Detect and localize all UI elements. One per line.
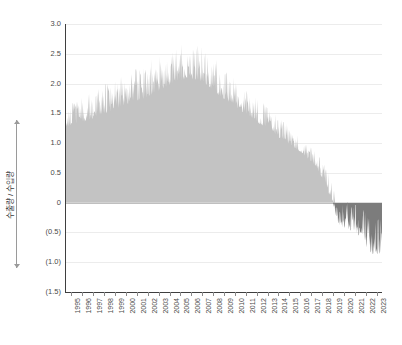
- x-tick-mark-2004: [170, 292, 171, 296]
- x-tick-2004: 2004: [173, 298, 180, 314]
- x-tick-2018: 2018: [325, 298, 332, 314]
- x-tick-2007: 2007: [205, 298, 212, 314]
- x-tick-1995: 1995: [74, 298, 81, 314]
- x-tick-2021: 2021: [358, 298, 365, 314]
- y-tick-10: 1.0: [51, 139, 61, 147]
- x-tick-mark-2007: [202, 292, 203, 296]
- x-tick-2023: 2023: [380, 298, 387, 314]
- y-axis-title: 수출량 / 수입량: [4, 120, 18, 270]
- x-tick-mark-2008: [213, 292, 214, 296]
- x-tick-mark-2003: [159, 292, 160, 296]
- x-tick-2003: 2003: [162, 298, 169, 314]
- x-tick-mark-2005: [180, 292, 181, 296]
- x-tick-mark-2017: [311, 292, 312, 296]
- x-tick-1999: 1999: [118, 298, 125, 314]
- x-tick-mark-1999: [115, 292, 116, 296]
- x-tick-2014: 2014: [281, 298, 288, 314]
- x-tick-mark-2016: [300, 292, 301, 296]
- x-tick-mark-1996: [82, 292, 83, 296]
- x-tick-2019: 2019: [336, 298, 343, 314]
- chart-root: 수출량 / 수입량 3.02.52.01.51.00.50(0.5)(1.0)(…: [0, 0, 402, 345]
- x-tick-mark-2021: [355, 292, 356, 296]
- x-tick-1998: 1998: [107, 298, 114, 314]
- x-tick-2002: 2002: [151, 298, 158, 314]
- area-negative: [66, 203, 382, 255]
- x-tick-2000: 2000: [129, 298, 136, 314]
- x-tick-mark-2000: [126, 292, 127, 296]
- x-tick-mark-1998: [104, 292, 105, 296]
- x-tick-mark-2019: [333, 292, 334, 296]
- x-tick-mark-2022: [366, 292, 367, 296]
- x-tick-2013: 2013: [271, 298, 278, 314]
- x-tick-2017: 2017: [314, 298, 321, 314]
- x-tick-mark-2018: [322, 292, 323, 296]
- x-tick-2016: 2016: [303, 298, 310, 314]
- x-tick-mark-2009: [224, 292, 225, 296]
- y-tick-05: 0.5: [51, 169, 61, 177]
- x-tick-mark-2001: [137, 292, 138, 296]
- plot-area: 3.02.52.01.51.00.50(0.5)(1.0)(1.5) 19951…: [66, 24, 382, 292]
- area-series: [66, 24, 382, 292]
- x-tick-mark-2002: [148, 292, 149, 296]
- x-tick-mark-2012: [257, 292, 258, 296]
- x-tick-2008: 2008: [216, 298, 223, 314]
- y-tick-25: 2.5: [51, 50, 61, 58]
- x-tick-2010: 2010: [238, 298, 245, 314]
- y-axis-title-wrap: 수출량 / 수입량: [0, 120, 22, 270]
- y-tick-05: (0.5): [46, 229, 61, 237]
- x-tick-mark-2006: [191, 292, 192, 296]
- x-tick-mark-2023: [377, 292, 378, 296]
- x-tick-1996: 1996: [85, 298, 92, 314]
- x-tick-2011: 2011: [249, 298, 256, 313]
- x-tick-mark-2015: [289, 292, 290, 296]
- x-tick-mark-1997: [93, 292, 94, 296]
- x-tick-mark-2014: [278, 292, 279, 296]
- y-tick-15: (1.5): [46, 288, 61, 296]
- x-tick-mark-2010: [235, 292, 236, 296]
- x-tick-2009: 2009: [227, 298, 234, 314]
- x-tick-mark-2020: [344, 292, 345, 296]
- y-tick-15: 1.5: [51, 110, 61, 118]
- x-tick-1997: 1997: [96, 298, 103, 314]
- x-tick-mark-1995: [71, 292, 72, 296]
- x-tick-2001: 2001: [140, 298, 147, 314]
- x-tick-2012: 2012: [260, 298, 267, 314]
- x-tick-2015: 2015: [292, 298, 299, 314]
- y-tick-0: 0: [57, 199, 61, 207]
- x-tick-2022: 2022: [369, 298, 376, 314]
- y-tick-20: 2.0: [51, 80, 61, 88]
- x-tick-2020: 2020: [347, 298, 354, 314]
- y-tick-10: (1.0): [46, 258, 61, 266]
- y-tick-30: 3.0: [51, 20, 61, 28]
- area-positive: [66, 44, 382, 202]
- x-tick-2006: 2006: [194, 298, 201, 314]
- x-tick-2005: 2005: [183, 298, 190, 314]
- x-tick-mark-2011: [246, 292, 247, 296]
- x-tick-mark-2013: [268, 292, 269, 296]
